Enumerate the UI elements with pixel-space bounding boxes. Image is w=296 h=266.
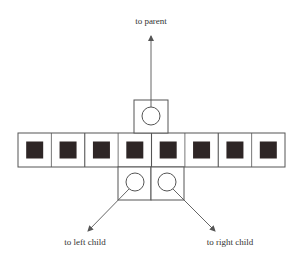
key-square [260,142,277,159]
key-square [26,142,43,159]
child-pointers [88,167,215,231]
parent-pointer [134,36,168,133]
key-square [126,142,143,159]
left-child-pointer-circle [126,173,144,191]
right-child-arrow [173,189,215,231]
to-right-child-label: to right child [207,237,254,247]
keys-row [18,133,285,167]
left-child-arrow [88,189,129,231]
key-square [193,142,210,159]
key-square [226,142,243,159]
right-child-pointer-circle [158,173,176,191]
to-parent-label: to parent [135,16,167,26]
parent-pointer-circle [142,107,160,125]
key-square [60,142,77,159]
node-diagram [0,0,296,266]
key-square [160,142,177,159]
key-square [93,142,110,159]
to-left-child-label: to left child [64,237,106,247]
